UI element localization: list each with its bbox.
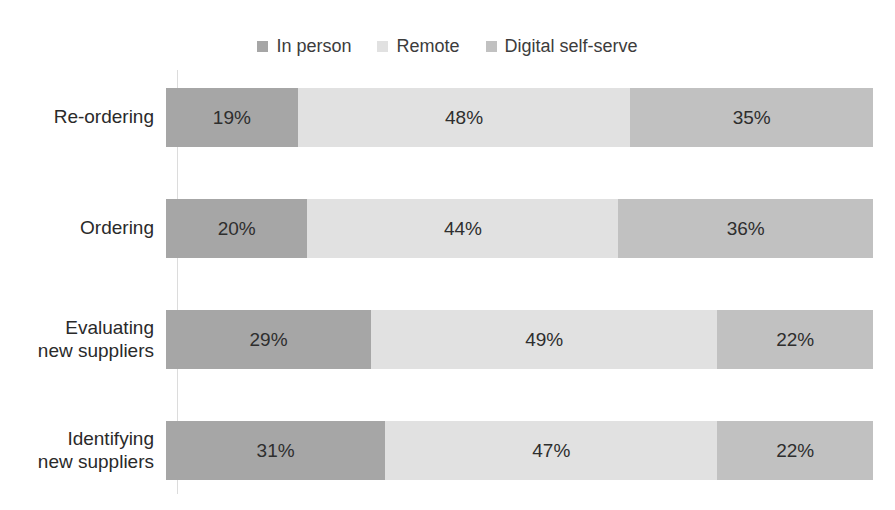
- chart-row: Ordering20%44%36%: [0, 199, 895, 258]
- legend: In personRemoteDigital self-serve: [0, 36, 895, 57]
- bar-segment: 29%: [166, 310, 371, 369]
- legend-label: Digital self-serve: [505, 36, 638, 57]
- bar-segment: 22%: [717, 310, 873, 369]
- value-label: 29%: [250, 329, 288, 351]
- bar-segment: 20%: [166, 199, 307, 258]
- legend-item: Digital self-serve: [486, 36, 638, 57]
- bar-segment: 36%: [618, 199, 873, 258]
- chart-row: Re-ordering19%48%35%: [0, 88, 895, 147]
- category-label: Re-ordering: [0, 88, 166, 147]
- value-label: 48%: [445, 107, 483, 129]
- stacked-bar: 19%48%35%: [166, 88, 873, 147]
- value-label: 35%: [733, 107, 771, 129]
- value-label: 19%: [213, 107, 251, 129]
- value-label: 44%: [444, 218, 482, 240]
- value-label: 20%: [218, 218, 256, 240]
- stacked-bar: 31%47%22%: [166, 421, 873, 480]
- value-label: 36%: [727, 218, 765, 240]
- category-label: Ordering: [0, 199, 166, 258]
- stacked-bar: 20%44%36%: [166, 199, 873, 258]
- bar-segment: 19%: [166, 88, 298, 147]
- chart-area: Re-ordering19%48%35%Ordering20%44%36%Eva…: [0, 88, 895, 480]
- category-label: Evaluating new suppliers: [0, 310, 166, 369]
- legend-swatch-icon: [486, 41, 497, 52]
- bar-segment: 44%: [307, 199, 618, 258]
- bar-segment: 49%: [371, 310, 717, 369]
- bar-segment: 35%: [630, 88, 873, 147]
- legend-label: In person: [276, 36, 351, 57]
- legend-label: Remote: [396, 36, 459, 57]
- legend-swatch-icon: [377, 41, 388, 52]
- legend-swatch-icon: [257, 41, 268, 52]
- chart-row: Evaluating new suppliers29%49%22%: [0, 310, 895, 369]
- chart-row: Identifying new suppliers31%47%22%: [0, 421, 895, 480]
- bar-segment: 47%: [385, 421, 717, 480]
- bar-segment: 48%: [298, 88, 631, 147]
- chart-rows: Re-ordering19%48%35%Ordering20%44%36%Eva…: [0, 88, 895, 480]
- bar-segment: 22%: [717, 421, 873, 480]
- value-label: 47%: [532, 440, 570, 462]
- value-label: 31%: [257, 440, 295, 462]
- value-label: 22%: [776, 440, 814, 462]
- category-label: Identifying new suppliers: [0, 421, 166, 480]
- chart-canvas: In personRemoteDigital self-serve Re-ord…: [0, 0, 895, 510]
- bar-segment: 31%: [166, 421, 385, 480]
- legend-item: Remote: [377, 36, 459, 57]
- value-label: 22%: [776, 329, 814, 351]
- stacked-bar: 29%49%22%: [166, 310, 873, 369]
- legend-item: In person: [257, 36, 351, 57]
- value-label: 49%: [525, 329, 563, 351]
